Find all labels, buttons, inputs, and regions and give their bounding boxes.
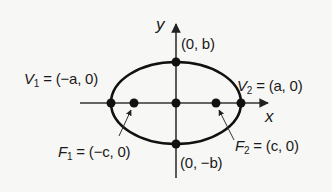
- v1-label: V1 = (−a, 0): [24, 71, 98, 89]
- v2-label: V2 = (a, 0): [237, 78, 303, 96]
- f2-label: F2 = (c, 0): [235, 138, 299, 156]
- vertex-v2-point: [237, 99, 246, 108]
- bottom-point: [172, 140, 181, 149]
- center-point: [172, 99, 181, 108]
- focus-f2-point: [212, 99, 221, 108]
- f1-label: F1 = (−c, 0): [58, 144, 130, 162]
- vertex-v1-point: [107, 99, 116, 108]
- ellipse-diagram: [0, 0, 332, 192]
- x-axis-label: x: [265, 108, 273, 125]
- bottom-point-label: (0, −b): [180, 155, 222, 170]
- top-point: [172, 58, 181, 67]
- focus-f1-point: [130, 99, 139, 108]
- top-point-label: (0, b): [181, 36, 215, 51]
- y-axis-label: y: [156, 16, 164, 33]
